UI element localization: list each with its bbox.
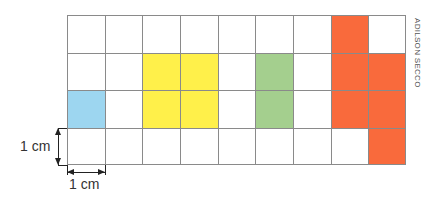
- yellow-shape-cell: [142, 90, 180, 128]
- vertical-scale-label: 1 cm: [20, 138, 50, 154]
- orange-shape-cell: [331, 53, 369, 91]
- tick-right: [105, 165, 106, 175]
- arrow-down-icon: [55, 158, 61, 165]
- grid-line-horizontal: [67, 164, 406, 165]
- orange-shape-cell: [368, 128, 406, 166]
- arrow-up-icon: [55, 128, 61, 135]
- grid-line-horizontal: [67, 15, 406, 16]
- green-shape-cell: [255, 90, 293, 128]
- arrow-left-icon: [67, 169, 74, 175]
- orange-shape-cell: [368, 53, 406, 91]
- yellow-shape-cell: [180, 53, 218, 91]
- orange-shape-cell: [331, 15, 369, 53]
- yellow-shape-cell: [142, 53, 180, 91]
- tick-bottom: [58, 165, 67, 166]
- grid-line-horizontal: [67, 128, 406, 129]
- square-grid: [67, 15, 406, 165]
- grid-line-horizontal: [67, 90, 406, 91]
- blue-shape-cell: [67, 90, 105, 128]
- orange-shape-cell: [368, 90, 406, 128]
- horizontal-scale-label: 1 cm: [69, 176, 99, 192]
- orange-shape-cell: [331, 90, 369, 128]
- tick-top: [58, 128, 67, 129]
- grid-line-horizontal: [67, 53, 406, 54]
- arrow-right-icon: [98, 169, 105, 175]
- tick-left: [67, 165, 68, 175]
- credit-text: ADILSON SECCO: [413, 18, 422, 88]
- yellow-shape-cell: [180, 90, 218, 128]
- green-shape-cell: [255, 53, 293, 91]
